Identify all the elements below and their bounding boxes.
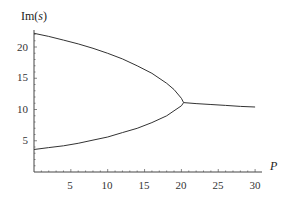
root-locus-chart: Im(s) P 5 10 15 20 25 30 5 10 15 20: [0, 0, 283, 198]
y-tick-15: 15: [17, 71, 29, 83]
x-tick-labels: 5 10 15 20 25 30: [67, 179, 261, 191]
x-axis: [34, 169, 262, 172]
y-tick-20: 20: [17, 41, 29, 53]
y-axis-label: Im(s): [21, 9, 47, 23]
series-line-1: [34, 103, 184, 150]
y-tick-labels: 5 10 15 20: [17, 41, 29, 146]
x-tick-5: 5: [67, 179, 73, 191]
x-tick-25: 25: [213, 179, 225, 191]
x-tick-30: 30: [250, 179, 262, 191]
y-tick-10: 10: [17, 103, 29, 115]
x-tick-20: 20: [176, 179, 188, 191]
y-tick-5: 5: [23, 134, 29, 146]
y-axis: [34, 30, 37, 172]
series-line-0: [34, 33, 184, 102]
x-tick-15: 15: [139, 179, 151, 191]
data-series: [34, 33, 255, 149]
series-line-2: [184, 103, 256, 107]
x-tick-10: 10: [102, 179, 114, 191]
x-axis-label: P: [269, 159, 278, 173]
